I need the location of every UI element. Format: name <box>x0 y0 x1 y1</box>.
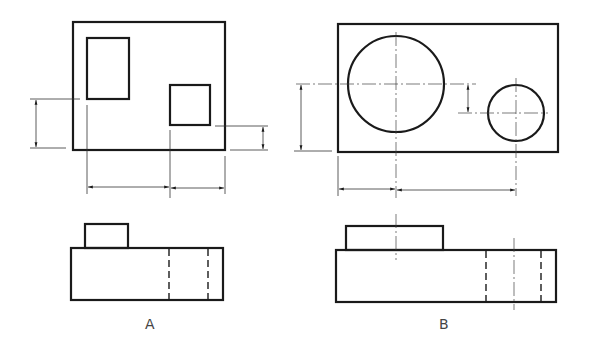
figure-a-label: A <box>145 316 155 332</box>
technical-drawing <box>0 0 589 351</box>
figure-b-label: B <box>439 316 449 332</box>
figure-a-front-view <box>71 224 223 300</box>
b-front-body <box>336 250 556 302</box>
a-front-bump <box>85 224 128 248</box>
b-front-bump <box>346 226 443 250</box>
a-small-square <box>170 85 210 125</box>
figure-a-top-view <box>30 22 268 198</box>
a-front-body <box>71 248 223 300</box>
a-tall-rectangle <box>87 38 129 99</box>
figure-b-front-view <box>336 214 556 310</box>
figure-b-top-view <box>294 24 558 198</box>
